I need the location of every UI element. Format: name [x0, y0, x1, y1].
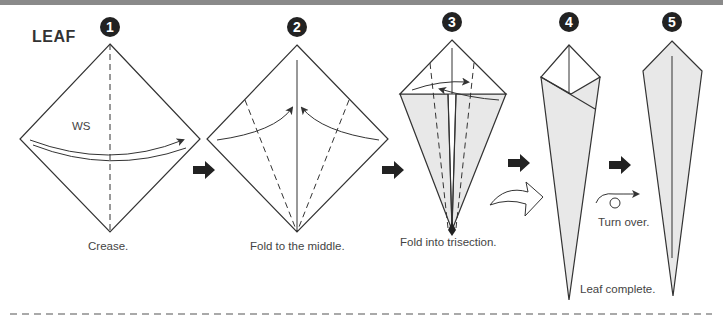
turn-over-instruction: Turn over.	[598, 216, 649, 228]
turn-over-icon	[596, 194, 638, 208]
ws-annotation: WS	[72, 120, 91, 132]
step-2-caption: Fold to the middle.	[250, 240, 345, 252]
step-2-shape	[207, 45, 388, 232]
next-arrow-icon	[508, 154, 530, 172]
next-arrow-icon	[382, 161, 404, 179]
next-arrow-icon	[193, 161, 215, 179]
step-4-shape	[541, 45, 600, 300]
step-1-shape	[20, 44, 200, 232]
hollow-arrow-icon	[490, 182, 543, 216]
step-3-shape	[400, 40, 506, 236]
next-arrow-icon	[609, 156, 631, 174]
step-3-caption: Fold into trisection.	[400, 236, 497, 248]
step-1-caption: Crease.	[88, 240, 128, 252]
origami-diagram	[0, 0, 723, 321]
step-5-shape	[643, 41, 702, 296]
step-5-caption: Leaf complete.	[580, 283, 655, 295]
